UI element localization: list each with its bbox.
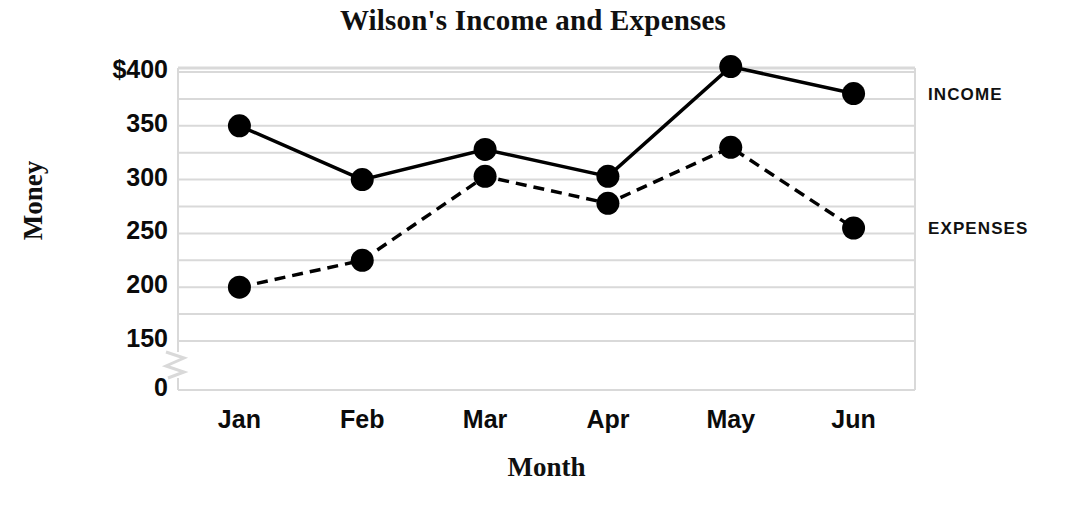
data-point-expenses-feb xyxy=(351,249,374,272)
data-point-income-may xyxy=(719,55,742,78)
series-label-income: INCOME xyxy=(928,85,1003,105)
data-point-income-apr xyxy=(596,165,619,188)
series-markers xyxy=(228,55,865,299)
data-point-expenses-may xyxy=(719,136,742,159)
data-point-expenses-apr xyxy=(596,192,619,215)
data-point-income-jan xyxy=(228,114,251,137)
series-line-expenses xyxy=(239,147,853,287)
series-label-expenses: EXPENSES xyxy=(928,219,1028,239)
data-point-income-mar xyxy=(474,138,497,161)
line-chart: Wilson's Income and Expenses Money Month… xyxy=(0,0,1066,513)
y-axis-break-icon xyxy=(166,352,184,378)
data-point-expenses-jun xyxy=(842,217,865,240)
data-point-income-jun xyxy=(842,82,865,105)
data-point-expenses-mar xyxy=(474,165,497,188)
series-line-income xyxy=(239,67,853,180)
gridlines xyxy=(178,72,915,390)
data-point-expenses-jan xyxy=(228,276,251,299)
plot-area xyxy=(0,0,1066,513)
data-point-income-feb xyxy=(351,168,374,191)
